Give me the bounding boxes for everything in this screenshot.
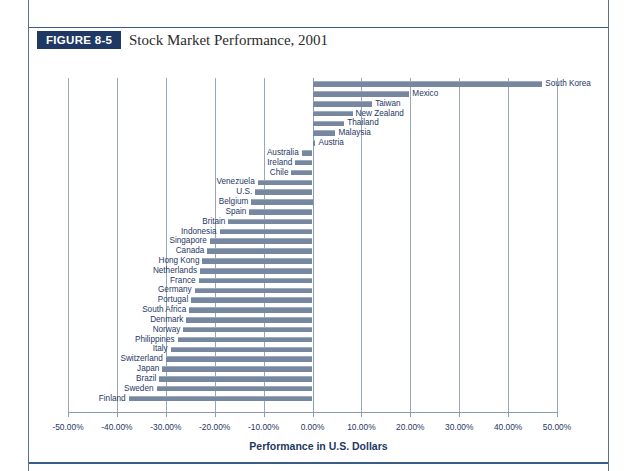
x-axis-tick-50 (557, 412, 558, 417)
chart-bar (313, 130, 336, 136)
chart-bar-row: Ireland (68, 159, 557, 167)
chart-bar-label: South Korea (545, 80, 591, 88)
chart-bar-row: South Africa (68, 306, 557, 314)
chart-bar (202, 258, 312, 264)
chart-bar-label: Germany (158, 286, 192, 294)
chart-bar-row: Mexico (68, 90, 557, 98)
chart-bar (162, 366, 312, 372)
chart-bar-row: Australia (68, 149, 557, 157)
chart-bar-row: Brazil (68, 375, 557, 383)
chart-bar (302, 150, 313, 156)
chart-bar-label: Hong Kong (159, 257, 200, 265)
chart-bar-row: Italy (68, 345, 557, 353)
chart-bar (166, 356, 313, 362)
chart-bar-label: U.S. (236, 188, 252, 196)
chart-bar-row: Malaysia (68, 129, 557, 137)
chart-bar (199, 278, 313, 284)
x-axis-tick-label: 10.00% (347, 422, 375, 432)
x-axis-tick-label: -50.00% (52, 422, 83, 432)
chart-bar-label: Netherlands (153, 267, 197, 275)
x-axis-tick-label: 0.00% (301, 422, 325, 432)
chart-bar (313, 81, 543, 87)
chart-bar (313, 121, 345, 127)
chart-bar (183, 327, 312, 333)
page-right-rule (608, 0, 609, 471)
chart-bar-label: Brazil (136, 375, 156, 383)
chart-bar-label: Austria (318, 139, 343, 147)
chart-bar-row: Portugal (68, 296, 557, 304)
chart-bar (255, 189, 312, 195)
chart-bar-label: Italy (153, 345, 168, 353)
chart-bar (186, 317, 312, 323)
chart-bar-label: Denmark (150, 316, 183, 324)
x-axis-tick-label: -30.00% (150, 422, 181, 432)
x-axis-tick-label: 30.00% (445, 422, 473, 432)
chart-bar-row: U.S. (68, 188, 557, 196)
chart-bar-row: Sweden (68, 385, 557, 393)
chart-bar-label: New Zealand (356, 110, 404, 118)
chart-bar-label: Indonesia (181, 228, 217, 236)
figure-header: FIGURE 8-5 Stock Market Performance, 200… (29, 27, 608, 52)
x-axis-tick-label: 40.00% (494, 422, 522, 432)
chart-bar-row: Norway (68, 326, 557, 334)
chart-bar-label: Mexico (412, 90, 438, 98)
x-axis-tick-40 (508, 412, 509, 417)
chart-bar (178, 337, 313, 343)
figure-number-badge: FIGURE 8-5 (37, 31, 121, 49)
chart-bar (207, 248, 312, 254)
chart-bar-label: South Africa (142, 306, 186, 314)
chart-bar-row: New Zealand (68, 109, 557, 117)
x-axis-tick-20 (410, 412, 411, 417)
chart-bar (313, 91, 410, 97)
x-axis-tick-label: -40.00% (101, 422, 132, 432)
chart-bar (157, 386, 313, 392)
chart-bar-row: Denmark (68, 316, 557, 324)
chart-bar-row: Netherlands (68, 267, 557, 275)
chart-bar (220, 229, 313, 235)
x-axis-tick-label: -10.00% (248, 422, 279, 432)
chart-bar (228, 219, 312, 225)
chart-bar-label: Australia (267, 149, 299, 157)
x-axis-title: Performance in U.S. Dollars (29, 440, 608, 452)
chart-bar (295, 160, 312, 166)
chart-bar-label: Spain (225, 208, 246, 216)
chart-bar (251, 199, 312, 205)
x-axis-tick--30 (166, 412, 167, 417)
chart-bar (249, 209, 312, 215)
chart-bar-row: Spain (68, 208, 557, 216)
x-axis-tick-label: -20.00% (199, 422, 230, 432)
chart-bar-label: Malaysia (338, 129, 370, 137)
chart-bar-label: Switzerland (120, 355, 162, 363)
chart-bar (291, 170, 312, 176)
figure-title: Stock Market Performance, 2001 (129, 31, 328, 49)
x-axis-tick-30 (459, 412, 460, 417)
chart-bar-row: Singapore (68, 237, 557, 245)
chart-bar-row: Indonesia (68, 227, 557, 235)
x-axis-tick--40 (117, 412, 118, 417)
chart-bar (210, 238, 313, 244)
x-axis-tick-label: 50.00% (543, 422, 571, 432)
chart-bar-label: Thailand (347, 119, 378, 127)
chart-bar-label: Norway (153, 326, 181, 334)
chart-bar-label: Canada (176, 247, 205, 255)
chart-bar-row: Japan (68, 365, 557, 373)
chart-bar (159, 376, 312, 382)
chart-bar-label: France (170, 277, 195, 285)
chart-bar-row: France (68, 276, 557, 284)
gridline-50 (557, 78, 558, 412)
x-axis-tick-10 (361, 412, 362, 417)
figure-bottom-rule (29, 462, 608, 464)
chart-bar-row: Canada (68, 247, 557, 255)
chart-bar (171, 347, 313, 353)
x-axis-tick--20 (215, 412, 216, 417)
chart-bar (313, 140, 316, 146)
chart-bar-label: Japan (137, 365, 159, 373)
chart-bar (258, 180, 313, 186)
chart-bar (189, 307, 312, 313)
figure-page: FIGURE 8-5 Stock Market Performance, 200… (0, 0, 628, 471)
chart-bar-row: Hong Kong (68, 257, 557, 265)
chart-bar-row: Chile (68, 168, 557, 176)
chart-bar-label: Taiwan (375, 100, 401, 108)
chart-bar-label: Britain (202, 218, 225, 226)
x-axis-tick-label: 20.00% (396, 422, 424, 432)
